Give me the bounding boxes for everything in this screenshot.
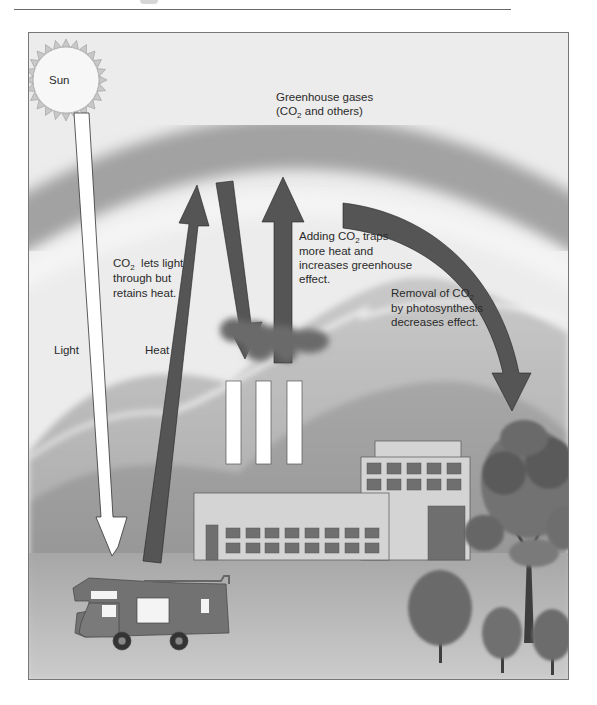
sun-label: Sun [49,73,69,87]
factory-low-building [194,493,389,560]
header-rule [14,9,511,10]
greenhouse-gases-label-line1: Greenhouse gases [276,90,373,104]
adding-co2-label-line3: increases greenhouse [299,258,412,272]
smokestacks [226,381,302,464]
removal-co2-label-line1: Removal of CO2 [391,286,474,300]
adding-co2-label-line4: effect. [299,272,330,286]
co2-lets-light-label-line1: CO2 lets light [113,256,183,270]
adding-co2-label-line1: Adding CO2 traps [299,229,388,243]
heat-label: Heat [145,343,169,357]
co2-lets-light-label-line2: through but [113,271,171,285]
greenhouse-scene [29,33,568,679]
adding-co2-label-line2: more heat and [299,244,373,258]
diagram-frame: Sun Greenhouse gases (CO2 and others) CO… [28,32,569,680]
page-tab-decoration [140,0,158,4]
removal-co2-label-line2: by photosynthesis [391,301,483,315]
light-label: Light [54,343,79,357]
greenhouse-gases-label-line2: (CO2 and others) [276,104,363,118]
co2-lets-light-label-line3: retains heat. [113,286,176,300]
removal-co2-label-line3: decreases effect. [391,315,478,329]
